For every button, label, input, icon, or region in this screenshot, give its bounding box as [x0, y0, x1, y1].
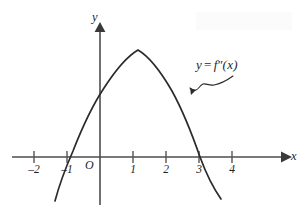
origin-label: O [85, 158, 94, 173]
annotation-equals: = [202, 57, 214, 72]
annotation-arrowhead [190, 88, 196, 95]
x-tick-label-1: 1 [122, 163, 144, 175]
x-tick-label-4: 4 [221, 163, 243, 175]
x-tick-label-2: 2 [155, 163, 177, 175]
annotation-leader-line [190, 76, 233, 90]
x-tick-label-neg2: –2 [23, 163, 45, 175]
annotation-argument: (x) [223, 57, 238, 72]
y-axis-label: y [92, 10, 98, 25]
x-axis-label: x [291, 149, 297, 164]
x-tick-label-neg1: –1 [56, 163, 78, 175]
x-tick-label-3: 3 [188, 163, 210, 175]
figure-container: –2 –1 1 2 3 4 O x y y=f″(x) [0, 0, 304, 218]
plot-canvas [0, 0, 304, 218]
curve-annotation-label: y=f″(x) [196, 57, 238, 73]
